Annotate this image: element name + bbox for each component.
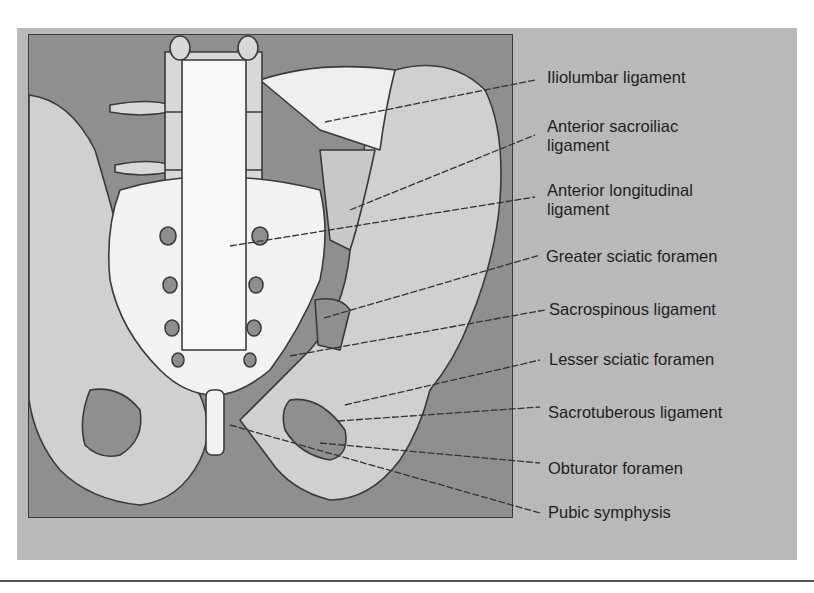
spinous-process-right [238,36,258,60]
l5-transverse-process [115,162,170,176]
label-anterior-longitudinal-ligament: Anterior longitudinalligament [547,181,693,219]
label-greater-sciatic-foramen: Greater sciatic foramen [546,247,717,266]
coccyx [206,390,224,455]
label-lesser-sciatic-foramen: Lesser sciatic foramen [549,350,714,369]
pelvis-illustration [0,0,814,593]
l4-transverse-process [110,102,170,116]
label-iliolumbar-ligament: Iliolumbar ligament [547,68,685,87]
label-sacrospinous-ligament: Sacrospinous ligament [549,300,716,319]
anterior-longitudinal-ligament [182,60,246,350]
label-line: ligament [547,200,609,218]
label-pubic-symphysis: Pubic symphysis [548,503,671,522]
iliolumbar-ligament-region [260,67,395,150]
spinous-process-left [170,36,190,60]
page-divider [0,580,814,582]
label-obturator-foramen: Obturator foramen [548,459,683,478]
label-line: Anterior sacroiliac [547,117,678,135]
label-anterior-sacroiliac-ligament: Anterior sacroiliacligament [547,117,678,155]
label-line: ligament [547,136,609,154]
label-sacrotuberous-ligament: Sacrotuberous ligament [548,403,722,422]
label-line: Anterior longitudinal [547,181,693,199]
